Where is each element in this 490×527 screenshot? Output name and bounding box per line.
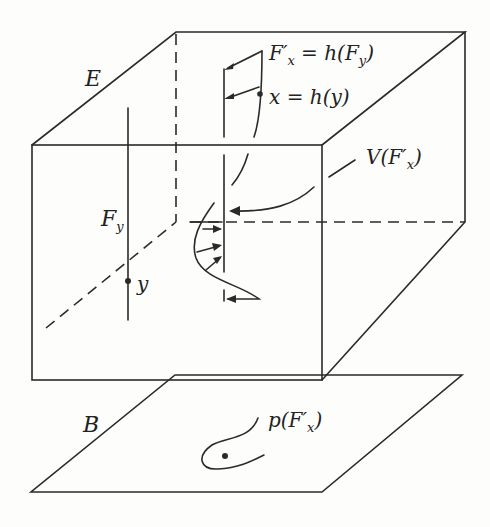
hidden-diagonal-edge [46, 222, 176, 328]
box-front-face [32, 145, 322, 380]
fiber-y [125, 108, 131, 320]
label-fiber-x-equation: F′x = h(Fy) [269, 43, 374, 67]
diagram-canvas [0, 0, 490, 527]
label-fiber-y: Fy [101, 208, 124, 233]
fiber-x-top [224, 51, 263, 137]
label-projection-p: p(F′x) [268, 410, 322, 434]
label-total-space-e: E [85, 68, 101, 90]
label-neighborhood-v: V(F′x) [366, 147, 422, 171]
label-point-y: y [137, 274, 148, 294]
label-point-x: x = h(y) [269, 87, 350, 107]
neighborhood-pointer [229, 160, 355, 216]
projected-point-dot [222, 453, 228, 459]
label-base-space-b: B [83, 414, 99, 436]
point-y-dot [125, 278, 131, 284]
fiber-bundle-diagram: E Fy y F′x = h(Fy) x = h(y) V(F′x) B p(F… [0, 0, 490, 527]
point-x-dot [257, 91, 263, 97]
fiber-x-section [190, 154, 259, 303]
